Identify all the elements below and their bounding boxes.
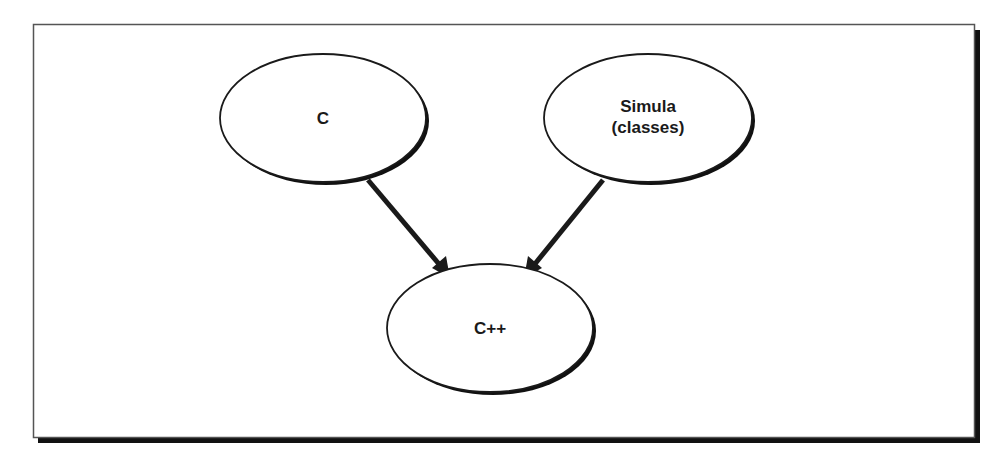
node-simula-label-line2: (classes)	[612, 118, 685, 137]
node-c-label: C	[317, 109, 329, 128]
diagram-canvas: C Simula (classes) C++	[0, 0, 1007, 465]
node-simula-label-line1: Simula	[620, 97, 676, 116]
node-cpp-label: C++	[474, 319, 506, 338]
